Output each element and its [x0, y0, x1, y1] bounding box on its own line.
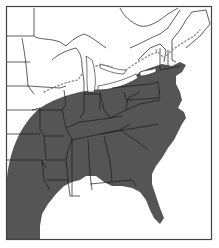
- range-map: [0, 0, 219, 248]
- map-svg: [0, 0, 219, 248]
- lake-okeechobee: [148, 212, 151, 215]
